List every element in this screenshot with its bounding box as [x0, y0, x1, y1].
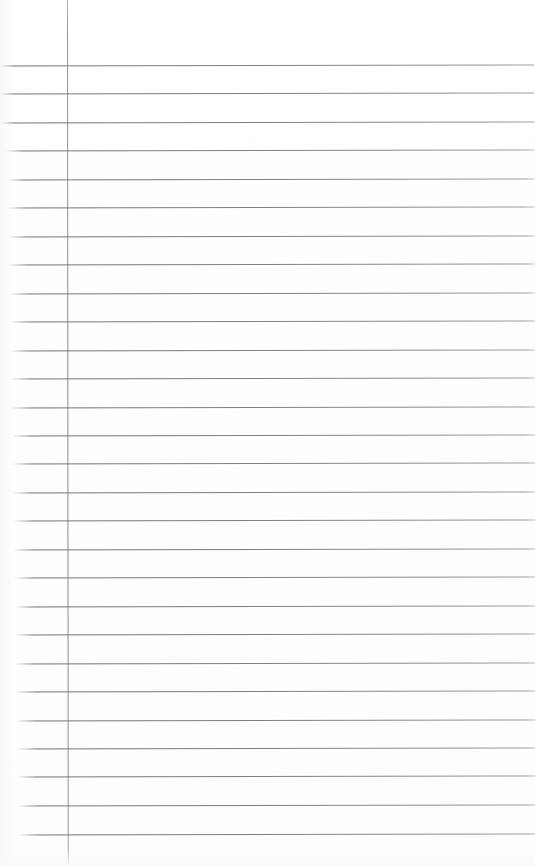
notebook-page	[0, 0, 535, 866]
page-body-text	[72, 0, 527, 866]
